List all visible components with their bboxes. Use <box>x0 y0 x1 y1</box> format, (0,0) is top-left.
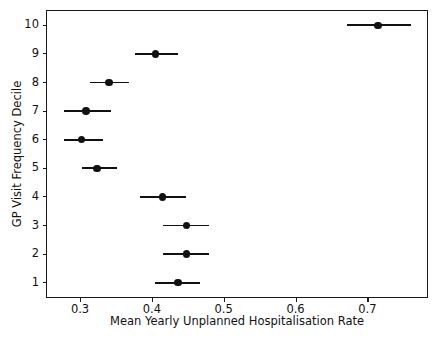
data-point-marker <box>183 222 191 230</box>
y-axis-tick-label: 6 <box>32 134 39 146</box>
y-axis-tick-label: 2 <box>32 248 39 260</box>
y-axis-tick-label: 5 <box>32 163 39 175</box>
x-axis-tick <box>367 297 368 302</box>
y-axis-tick <box>43 53 48 54</box>
y-axis-label: GP Visit Frequency Decile <box>10 10 24 298</box>
y-axis-tick <box>43 196 48 197</box>
y-axis-tick-label: 1 <box>32 277 39 289</box>
x-axis-tick <box>224 297 225 302</box>
x-axis-tick-label: 0.3 <box>71 304 89 316</box>
data-point-marker <box>183 250 191 258</box>
y-axis-tick-label: 10 <box>24 20 39 32</box>
y-axis-tick <box>43 225 48 226</box>
data-point-marker <box>174 279 182 287</box>
plot-area: 0.30.40.50.60.712345678910 <box>46 10 428 298</box>
y-axis-tick <box>43 139 48 140</box>
y-axis-tick-label: 3 <box>32 220 39 232</box>
y-axis-tick <box>43 111 48 112</box>
data-point-marker <box>159 193 167 201</box>
y-axis-tick-label: 4 <box>32 191 39 203</box>
y-axis-tick <box>43 254 48 255</box>
x-axis-label: Mean Yearly Unplanned Hospitalisation Ra… <box>46 316 428 328</box>
data-point-marker <box>78 136 86 144</box>
x-axis-tick <box>152 297 153 302</box>
y-axis-tick-label: 7 <box>32 105 39 117</box>
y-axis-tick <box>43 25 48 26</box>
data-point-marker <box>82 107 90 115</box>
data-point-marker <box>374 22 382 30</box>
y-axis-tick <box>43 282 48 283</box>
data-point-marker <box>152 50 160 58</box>
y-axis-tick <box>43 168 48 169</box>
chart-figure: 0.30.40.50.60.712345678910 Mean Yearly U… <box>0 0 435 340</box>
data-point-marker <box>93 165 101 173</box>
x-axis-tick <box>296 297 297 302</box>
data-point-marker <box>105 79 113 87</box>
y-axis-tick <box>43 82 48 83</box>
y-axis-tick-label: 8 <box>32 77 39 89</box>
y-axis-tick-label: 9 <box>32 48 39 60</box>
x-axis-tick <box>80 297 81 302</box>
